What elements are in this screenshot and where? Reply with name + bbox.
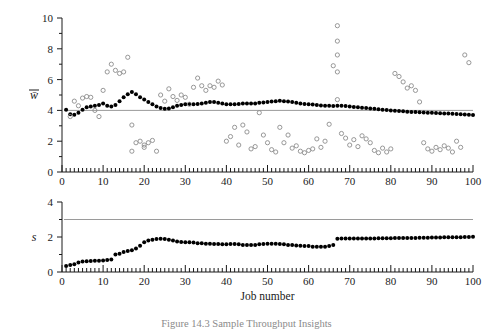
data-point-filled xyxy=(393,109,397,113)
data-point-open xyxy=(97,114,101,118)
data-point-filled xyxy=(413,110,417,114)
data-point-filled xyxy=(85,259,89,263)
data-point-filled xyxy=(290,100,294,104)
data-point-filled xyxy=(331,243,335,247)
x-tick-label-bottom: 40 xyxy=(221,275,233,287)
data-point-open xyxy=(105,70,109,74)
data-point-filled xyxy=(438,111,442,115)
data-point-filled xyxy=(409,110,413,114)
data-point-filled xyxy=(241,101,245,105)
data-point-open xyxy=(146,141,150,145)
data-point-open xyxy=(311,147,315,151)
data-point-filled xyxy=(155,105,159,109)
data-point-filled xyxy=(85,105,89,109)
data-point-filled xyxy=(319,245,323,249)
chart-svg: 02468100102030405060708090100w̄024010203… xyxy=(0,0,493,312)
data-point-open xyxy=(89,95,93,99)
data-point-open xyxy=(385,150,389,154)
data-point-filled xyxy=(352,105,356,109)
data-point-open xyxy=(113,68,117,72)
data-point-open xyxy=(348,143,352,147)
data-point-filled xyxy=(183,240,187,244)
data-point-open xyxy=(80,96,84,100)
data-point-filled xyxy=(270,99,274,103)
data-point-filled xyxy=(249,101,253,105)
x-tick-label-bottom: 30 xyxy=(180,275,192,287)
data-point-filled xyxy=(118,99,122,103)
data-point-open xyxy=(150,138,154,142)
data-point-filled xyxy=(89,259,93,263)
data-point-filled xyxy=(409,236,413,240)
data-point-open xyxy=(397,74,401,78)
data-point-filled xyxy=(72,113,76,117)
data-point-open xyxy=(237,143,241,147)
x-tick-label-top: 40 xyxy=(221,175,233,187)
data-point-filled xyxy=(179,240,183,244)
data-point-open xyxy=(228,134,232,138)
data-point-filled xyxy=(335,237,339,241)
data-point-filled xyxy=(368,107,372,111)
data-point-open xyxy=(339,131,343,135)
data-point-filled xyxy=(159,237,163,241)
data-point-open xyxy=(171,94,175,98)
data-point-open xyxy=(282,141,286,145)
data-point-filled xyxy=(159,106,163,110)
data-point-open xyxy=(335,53,339,57)
x-tick-label-top: 30 xyxy=(180,175,192,187)
series-open xyxy=(68,24,471,155)
data-point-filled xyxy=(200,101,204,105)
y-tick-label-bottom: 4 xyxy=(48,196,54,208)
data-point-filled xyxy=(72,262,76,266)
data-point-open xyxy=(405,86,409,90)
data-point-filled xyxy=(196,102,200,106)
data-point-open xyxy=(85,94,89,98)
x-tick-label-top: 60 xyxy=(303,175,315,187)
data-point-filled xyxy=(339,104,343,108)
data-point-open xyxy=(454,139,458,143)
data-point-open xyxy=(257,111,261,115)
data-point-filled xyxy=(179,103,183,107)
data-point-open xyxy=(417,100,421,104)
data-point-filled xyxy=(311,103,315,107)
data-point-filled xyxy=(430,236,434,240)
x-tick-label-top: 20 xyxy=(139,175,151,187)
data-point-filled xyxy=(266,242,270,246)
y-tick-label-top: 8 xyxy=(48,43,54,55)
data-point-open xyxy=(459,145,463,149)
data-point-open xyxy=(335,39,339,43)
data-point-filled xyxy=(294,243,298,247)
data-point-filled xyxy=(327,244,331,248)
data-point-open xyxy=(409,84,413,88)
data-point-filled xyxy=(385,236,389,240)
data-point-filled xyxy=(245,243,249,247)
data-point-open xyxy=(323,139,327,143)
x-tick-label-bottom: 90 xyxy=(426,275,438,287)
data-point-filled xyxy=(372,107,376,111)
data-point-open xyxy=(101,88,105,92)
data-point-open xyxy=(307,148,311,152)
data-point-filled xyxy=(446,235,450,239)
data-point-filled xyxy=(298,244,302,248)
y-tick-label-bottom: 2 xyxy=(48,231,54,243)
data-point-filled xyxy=(450,112,454,116)
data-point-filled xyxy=(142,98,146,102)
data-point-open xyxy=(335,24,339,28)
data-point-open xyxy=(159,93,163,97)
data-point-filled xyxy=(93,104,97,108)
data-point-filled xyxy=(344,236,348,240)
data-point-filled xyxy=(434,111,438,115)
data-point-open xyxy=(372,148,376,152)
data-point-filled xyxy=(376,236,380,240)
data-point-open xyxy=(360,134,364,138)
data-point-open xyxy=(274,150,278,154)
data-point-filled xyxy=(101,101,105,105)
data-point-filled xyxy=(130,90,134,94)
data-point-open xyxy=(290,146,294,150)
data-point-filled xyxy=(463,112,467,116)
figure-caption: Figure 14.3 Sample Throughput Insights xyxy=(0,318,493,329)
data-point-filled xyxy=(319,103,323,107)
data-point-open xyxy=(319,145,323,149)
data-point-open xyxy=(122,70,126,74)
data-point-filled xyxy=(405,236,409,240)
data-point-filled xyxy=(163,237,167,241)
